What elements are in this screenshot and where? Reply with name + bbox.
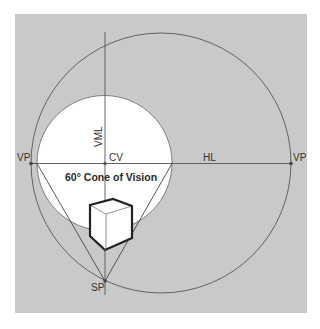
cube-base-dot	[104, 249, 106, 251]
sp-label: SP	[91, 282, 105, 293]
cone-of-vision-label: 60° Cone of Vision	[65, 171, 157, 183]
cv-label: CV	[109, 152, 123, 163]
vp-right-label: VP	[293, 152, 307, 163]
cv-dot	[103, 162, 107, 166]
vp-left-label: VP	[17, 152, 31, 163]
hl-label: HL	[203, 152, 216, 163]
vml-label: VML	[93, 126, 104, 147]
cone-of-vision-diagram: VP VP CV HL VML SP 60° Cone of Vision	[0, 0, 320, 329]
